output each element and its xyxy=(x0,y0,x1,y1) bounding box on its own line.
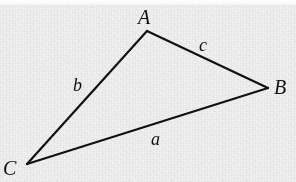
side-label-c: c xyxy=(199,36,207,54)
vertex-label-a: A xyxy=(138,7,150,27)
vertex-label-c: C xyxy=(3,158,16,178)
triangle-figure: A B C a b c xyxy=(0,0,296,182)
triangle-edge-c xyxy=(147,31,268,88)
vertex-label-b: B xyxy=(274,77,286,97)
side-label-a: a xyxy=(151,130,160,148)
side-label-b: b xyxy=(73,76,82,94)
triangle-edge-a xyxy=(27,88,268,164)
